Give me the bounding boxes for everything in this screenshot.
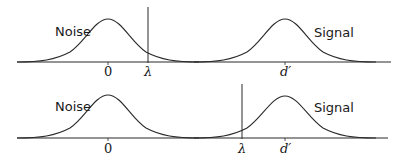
criterion-label-bottom: λ — [237, 141, 246, 156]
noise-mean-label-bottom: 0 — [104, 141, 112, 156]
signal-mean-label-top: d′ — [280, 64, 291, 79]
panel-bottom: Noise Signal 0 λ d′ — [17, 84, 388, 156]
noise-label-top: Noise — [55, 24, 91, 39]
noise-mean-label-top: 0 — [104, 64, 112, 79]
noise-curve-bottom — [17, 95, 199, 138]
signal-label-bottom: Signal — [314, 100, 354, 115]
noise-curve-top — [17, 19, 199, 62]
panel-top: Noise Signal 0 λ d′ — [17, 7, 391, 79]
criterion-label-top: λ — [143, 64, 152, 79]
signal-detection-diagram: Noise Signal 0 λ d′ Noise Signal 0 λ d′ — [0, 0, 402, 163]
signal-label-top: Signal — [314, 25, 354, 40]
noise-label-bottom: Noise — [55, 99, 91, 114]
signal-mean-label-bottom: d′ — [280, 141, 291, 156]
